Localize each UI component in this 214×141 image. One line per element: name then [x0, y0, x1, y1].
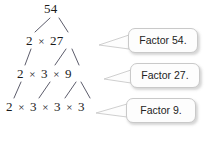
branch-54-to-27	[59, 18, 68, 32]
tree-row-3: 2 × 3 × 3 × 3	[6, 99, 85, 115]
callout-label: Factor 27.	[141, 70, 188, 81]
branch-27-to-9	[72, 49, 79, 65]
factor-tree-diagram: 54 2 × 27 2 × 3 × 9 2 × 3 × 3 × 3 Factor…	[0, 0, 214, 141]
times-operator: ×	[64, 101, 74, 113]
branch-9-to-3c	[65, 82, 76, 98]
tree-term-2: 2	[17, 66, 24, 82]
tree-term-3: 3	[30, 99, 37, 115]
branch-2-to-2b	[14, 82, 21, 98]
times-operator: ×	[40, 101, 50, 113]
callout-factor-27: Factor 27.	[130, 63, 200, 88]
branch-9-to-3d	[81, 82, 90, 98]
callout-factor-9: Factor 9.	[126, 98, 196, 123]
callout-tail-2	[104, 70, 131, 83]
callout-factor-54: Factor 54.	[128, 28, 198, 53]
branch-27-to-3	[55, 49, 66, 65]
branch-54-to-2	[35, 18, 50, 32]
times-operator: ×	[51, 68, 61, 80]
tree-term-9: 9	[65, 66, 72, 82]
tree-row-2: 2 × 3 × 9	[17, 66, 72, 82]
tree-term-27: 27	[50, 33, 63, 49]
branch-3-to-3b	[39, 82, 50, 98]
tree-term-3: 3	[41, 66, 48, 82]
tree-term-3: 3	[78, 99, 85, 115]
tree-row-1: 2 × 27	[26, 33, 63, 49]
tree-term-2: 2	[26, 33, 33, 49]
callout-tail-1	[99, 35, 129, 49]
branch-2-to-2	[25, 49, 31, 65]
callout-tail-3	[96, 104, 127, 117]
tree-term-54: 54	[44, 1, 57, 17]
callout-label: Factor 9.	[140, 105, 181, 116]
tree-term-2: 2	[6, 99, 13, 115]
tree-term-3: 3	[54, 99, 61, 115]
callout-label: Factor 54.	[139, 35, 186, 46]
tree-row-0: 54	[44, 1, 57, 17]
times-operator: ×	[16, 101, 26, 113]
times-operator: ×	[36, 35, 46, 47]
times-operator: ×	[27, 68, 37, 80]
